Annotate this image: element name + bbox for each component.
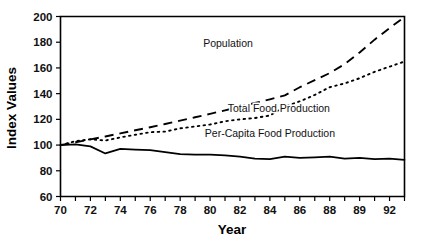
y-tick-label-200: 200 [33,11,52,23]
x-tick-label-76: 76 [144,204,157,216]
series-label-per-capita-food-production: Per-Capita Food Production [205,127,335,139]
series-label-population: Population [203,37,253,49]
y-tick-label-160: 160 [33,62,52,74]
x-tick-label-86: 86 [293,204,306,216]
x-tick-label-78: 78 [174,204,187,216]
x-axis-title: Year [218,222,247,237]
y-tick-label-100: 100 [33,139,52,151]
x-tick-label-80: 80 [204,204,217,216]
series-label-total-food-production: Total Food Production [228,102,330,114]
x-tick-label-72: 72 [84,204,97,216]
chart-container: 6080100120140160180200 70727476788082848… [0,0,426,244]
index-values-line-chart: 6080100120140160180200 70727476788082848… [0,0,426,244]
x-tick-label-82: 82 [234,204,247,216]
x-tick-label-88: 88 [323,204,336,216]
x-tick-label-92: 92 [383,204,396,216]
y-tick-label-80: 80 [40,165,53,177]
y-tick-label-120: 120 [33,113,52,125]
x-tick-label-74: 74 [114,204,127,216]
y-tick-label-140: 140 [33,88,52,100]
x-tick-label-84: 84 [263,204,276,216]
y-axis-title: Index Values [4,67,19,149]
y-tick-label-180: 180 [33,36,52,48]
x-tick-label-70: 70 [54,204,67,216]
y-tick-label-60: 60 [40,191,53,203]
x-tick-label-89: 89 [353,204,366,216]
